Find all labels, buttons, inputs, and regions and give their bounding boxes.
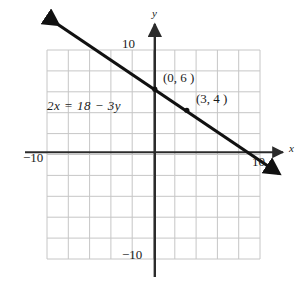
y-axis-name: y (152, 8, 157, 19)
grid-lines (47, 50, 260, 259)
coordinate-plane-figure: y x 10 −10 −10 10 2x = 18 − 3y (0, 6 ) (… (0, 0, 300, 283)
graph-canvas (0, 0, 300, 283)
point-label-3-4: (3, 4 ) (196, 92, 227, 105)
y-tick-label-negative: −10 (122, 248, 142, 261)
point-label-0-6: (0, 6 ) (163, 71, 194, 84)
y-tick-label-positive: 10 (122, 37, 135, 50)
point-marker-3-4 (184, 108, 189, 113)
x-tick-label-negative: −10 (23, 151, 43, 164)
point-marker-0-6 (152, 87, 157, 92)
x-axis-name: x (289, 143, 294, 154)
equation-label: 2x = 18 − 3y (47, 99, 121, 112)
x-tick-label-positive: 10 (252, 155, 265, 168)
